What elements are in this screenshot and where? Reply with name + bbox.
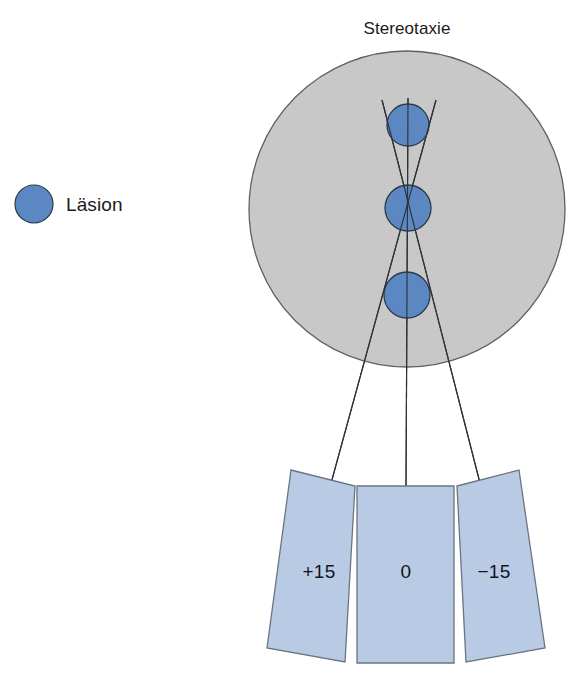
panel-minus-15-label: −15	[477, 561, 510, 582]
page-title: Stereotaxie	[363, 19, 450, 38]
panel-plus-15-label: +15	[302, 561, 335, 582]
legend: Läsion	[15, 185, 123, 223]
legend-label: Läsion	[66, 194, 123, 215]
figure-canvas: Stereotaxie Läsion +150−15	[0, 0, 587, 692]
angulation-panels: +150−15	[267, 470, 545, 663]
panel-zero-label: 0	[401, 561, 412, 582]
lesion-circle-icon	[15, 185, 53, 223]
stereotaxy-figure: Stereotaxie Läsion +150−15	[0, 0, 587, 692]
